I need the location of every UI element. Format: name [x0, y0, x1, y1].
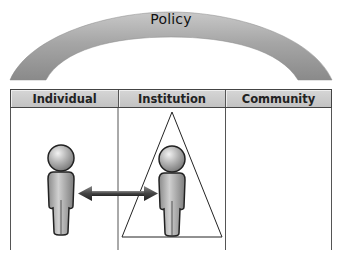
level-header-row: Individual Institution Community	[10, 89, 332, 108]
header-individual: Individual	[11, 90, 119, 107]
header-community: Community	[226, 90, 331, 107]
person-institution-icon	[159, 146, 185, 236]
policy-label: Policy	[0, 11, 342, 27]
diagram: Policy Individual Institution Community	[0, 0, 342, 261]
diagram-canvas	[0, 0, 342, 261]
person-individual-icon	[48, 145, 74, 235]
header-institution: Institution	[119, 90, 226, 107]
